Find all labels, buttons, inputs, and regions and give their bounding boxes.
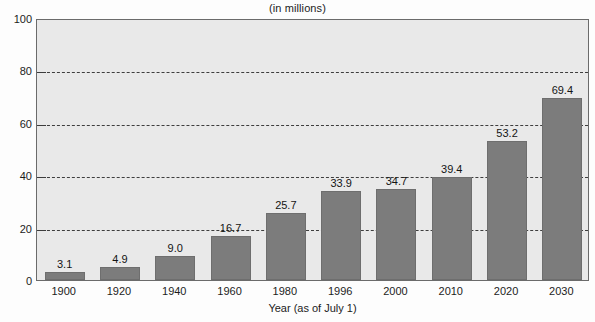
y-axis-tick-label: 0 [2, 275, 32, 287]
y-axis-tick-label: 40 [2, 170, 32, 182]
y-axis-tick-label: 60 [2, 118, 32, 130]
bar [155, 256, 195, 280]
bar [45, 272, 85, 280]
x-axis-tick-label: 1900 [51, 285, 75, 297]
bar-value-label: 3.1 [57, 258, 72, 270]
x-axis-tick-label: 2000 [383, 285, 407, 297]
x-axis-tick-label: 2010 [439, 285, 463, 297]
bar-value-label: 69.4 [552, 84, 573, 96]
chart-figure: (in millions) 020406080100 3.14.99.016.7… [0, 0, 595, 322]
bar-value-label: 34.7 [386, 175, 407, 187]
bar [100, 267, 140, 280]
chart-title: (in millions) [0, 2, 595, 14]
bar-value-label: 16.7 [220, 222, 241, 234]
plot-inner: 3.14.99.016.725.733.934.739.453.269.4 [37, 20, 588, 280]
y-axis-tick-labels: 020406080100 [0, 19, 32, 281]
bar-group: 53.2 [487, 20, 527, 280]
bar [542, 98, 582, 280]
y-axis-tick-label: 20 [2, 223, 32, 235]
x-axis-tick-label: 2020 [494, 285, 518, 297]
bar-value-label: 25.7 [275, 199, 296, 211]
bar-group: 9.0 [155, 20, 195, 280]
bar-value-label: 39.4 [441, 163, 462, 175]
y-axis-tick-label: 80 [2, 65, 32, 77]
x-axis-tick-label: 1960 [217, 285, 241, 297]
plot-area: 3.14.99.016.725.733.934.739.453.269.4 [36, 19, 589, 281]
bar [321, 191, 361, 280]
bar-value-label: 9.0 [168, 242, 183, 254]
bar-group: 3.1 [45, 20, 85, 280]
bar-value-label: 4.9 [112, 253, 127, 265]
bar [432, 177, 472, 280]
x-axis-title: Year (as of July 1) [36, 302, 589, 314]
bar-group: 34.7 [376, 20, 416, 280]
bar-group: 33.9 [321, 20, 361, 280]
bar-group: 25.7 [266, 20, 306, 280]
x-axis-tick-label: 1996 [328, 285, 352, 297]
bar [487, 141, 527, 280]
y-axis-tick-label: 100 [2, 13, 32, 25]
bar-group: 39.4 [432, 20, 472, 280]
bar [211, 236, 251, 280]
x-axis-tick-label: 1940 [162, 285, 186, 297]
x-axis-tick-label: 2030 [549, 285, 573, 297]
bar-group: 4.9 [100, 20, 140, 280]
x-axis-tick-label: 1920 [107, 285, 131, 297]
bar [266, 213, 306, 280]
bar-value-label: 53.2 [496, 127, 517, 139]
x-axis-tick-label: 1980 [273, 285, 297, 297]
bar-group: 69.4 [542, 20, 582, 280]
bar-group: 16.7 [211, 20, 251, 280]
bar [376, 189, 416, 280]
x-axis-tick-labels: 1900192019401960198019962000201020202030 [36, 285, 589, 299]
bar-value-label: 33.9 [330, 177, 351, 189]
